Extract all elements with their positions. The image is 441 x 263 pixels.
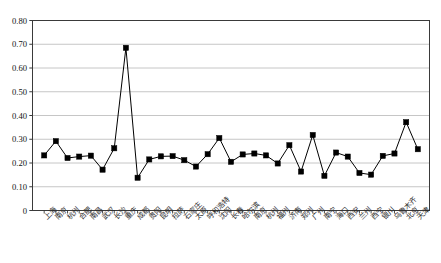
chart-canvas: 00.100.200.300.400.500.600.700.80 [0,0,441,263]
gridlines [33,44,430,187]
data-point-marker [193,164,198,169]
data-point-marker [112,146,117,151]
data-point-marker [252,151,257,156]
data-point-marker [275,161,280,166]
data-point-marker [357,170,362,175]
data-point-marker [228,159,233,164]
y-tick-label: 0.50 [12,87,27,97]
data-point-marker [182,158,187,163]
y-tick-label: 0.20 [12,158,27,168]
data-point-marker [263,153,268,158]
data-point-marker [77,154,82,159]
data-point-marker [158,154,163,159]
line-chart: 00.100.200.300.400.500.600.700.80 上海南京杭州… [0,0,441,263]
y-tick-label: 0 [23,206,27,216]
data-point-marker [123,45,128,50]
data-point-marker [392,151,397,156]
data-point-marker [240,152,245,157]
data-point-marker [53,139,58,144]
data-point-marker [135,175,140,180]
data-point-marker [170,154,175,159]
data-point-marker [369,172,374,177]
data-point-marker [298,169,303,174]
data-point-marker [65,155,70,160]
y-tick-label: 0.10 [12,182,27,192]
data-markers [42,45,421,180]
data-point-marker [217,135,222,140]
data-point-marker [205,152,210,157]
y-axis-ticks: 00.100.200.300.400.500.600.700.80 [12,16,33,216]
y-tick-label: 0.40 [12,111,27,121]
data-point-marker [322,173,327,178]
y-tick-label: 0.70 [12,39,27,49]
data-point-marker [333,150,338,155]
data-point-marker [380,153,385,158]
data-point-marker [415,147,420,152]
data-point-marker [88,153,93,158]
data-point-marker [404,120,409,125]
data-line [44,48,418,178]
data-point-marker [345,154,350,159]
y-tick-label: 0.60 [12,63,27,73]
data-point-marker [100,167,105,172]
data-point-marker [42,153,47,158]
data-point-marker [147,157,152,162]
data-point-marker [310,132,315,137]
data-point-marker [287,143,292,148]
y-tick-label: 0.30 [12,134,27,144]
y-tick-label: 0.80 [12,16,27,26]
